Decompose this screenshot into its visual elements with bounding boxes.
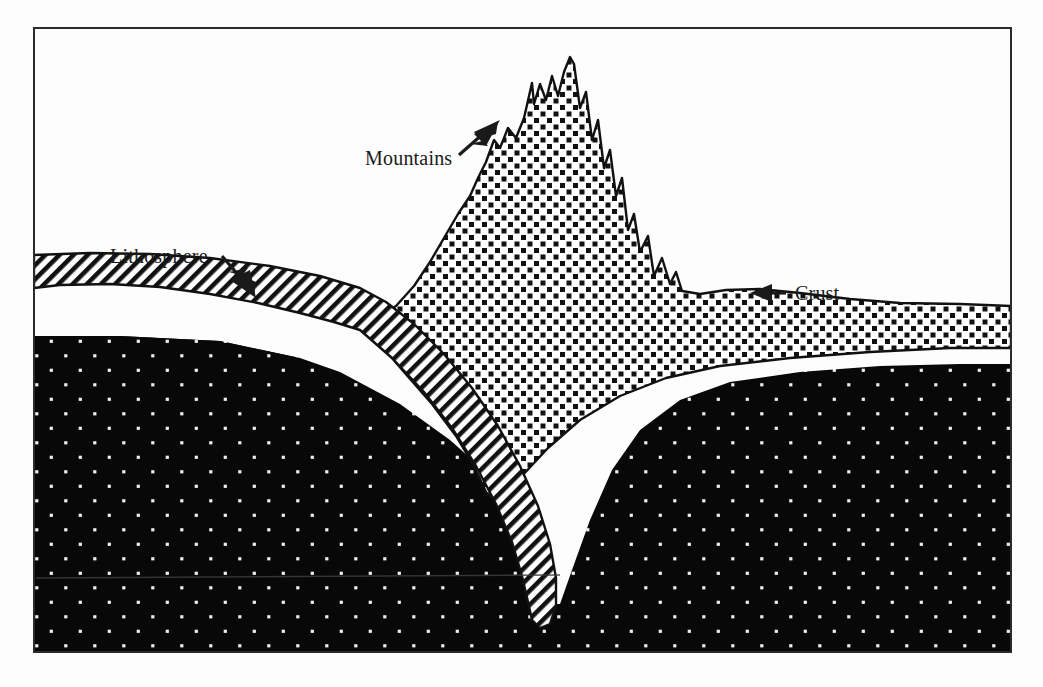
- geological-cross-section-figure: Lithosphere Mountains Crust: [0, 0, 1043, 687]
- mantle-left-fill: [34, 336, 300, 652]
- label-crust-text: Crust: [795, 282, 840, 304]
- label-mountains-text: Mountains: [365, 147, 452, 169]
- label-lithosphere-text: Lithosphere: [110, 245, 208, 268]
- cross-section-diagram: Lithosphere Mountains Crust: [0, 0, 1043, 687]
